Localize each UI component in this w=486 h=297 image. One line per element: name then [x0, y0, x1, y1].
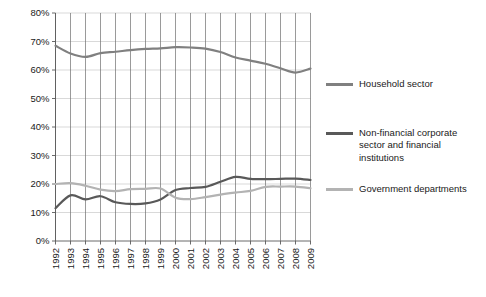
x-axis-tick-label: 2001 — [185, 248, 196, 269]
x-axis-tick-label: 1995 — [95, 248, 106, 269]
legend-item-non-financial-corporate: Non-financial corporate sector and finan… — [326, 127, 457, 164]
x-axis-tick-labels: 1992199319941995199619971998199920002001… — [50, 248, 316, 269]
y-axis-tick-label: 40% — [30, 121, 50, 132]
x-axis-tick-label: 2004 — [230, 248, 241, 269]
legend-item-household-sector: Household sector — [326, 78, 433, 90]
x-axis-tick-label: 1996 — [110, 248, 121, 269]
x-axis-tick-label: 2005 — [245, 248, 256, 269]
legend-swatch-household-sector — [326, 83, 353, 86]
legend-label-household-sector: Household sector — [359, 78, 433, 90]
series-line-non-financial-corporate-sector-and-finan — [56, 177, 311, 208]
x-axis-tick-label: 1999 — [155, 248, 166, 269]
x-axis-tick-label: 2006 — [260, 248, 271, 269]
y-axis-tick-label: 20% — [30, 178, 50, 189]
x-axis-tick-label: 2009 — [305, 248, 316, 269]
legend-swatch-non-financial-corporate — [326, 132, 353, 135]
legend-label-government-departments: Government departments — [359, 183, 467, 195]
x-axis-tick-label: 1992 — [50, 248, 61, 269]
x-axis-tick-label: 1993 — [65, 248, 76, 269]
x-axis-tick-label: 1998 — [140, 248, 151, 269]
x-axis-tick-label: 2002 — [200, 248, 211, 269]
y-axis-tick-label: 30% — [30, 150, 50, 161]
y-axis-tick-labels: 80%70%60%50%40%30%20%10%0% — [30, 7, 50, 246]
x-axis-tick-label: 2003 — [215, 248, 226, 269]
legend-swatch-government-departments — [326, 188, 353, 191]
y-axis-tick-label: 60% — [30, 64, 50, 75]
x-axis-tick-label: 2008 — [290, 248, 301, 269]
x-axis-tick-label: 2007 — [275, 248, 286, 269]
y-axis-tick-label: 10% — [30, 207, 50, 218]
series-line-household-sector — [56, 46, 311, 73]
x-axis-tick-label: 2000 — [170, 248, 181, 269]
y-axis-tick-label: 0% — [36, 235, 50, 246]
legend-item-government-departments: Government departments — [326, 183, 467, 195]
line-chart: 80%70%60%50%40%30%20%10%0% 1992199319941… — [0, 0, 486, 297]
y-axis-tick-label: 80% — [30, 7, 50, 18]
legend-label-non-financial-corporate: Non-financial corporate sector and finan… — [359, 127, 457, 164]
x-axis-tick-label: 1997 — [125, 248, 136, 269]
horizontal-gridlines — [56, 13, 311, 213]
x-axis-tick-label: 1994 — [80, 248, 91, 269]
y-axis-tick-label: 70% — [30, 36, 50, 47]
y-axis-tick-label: 50% — [30, 93, 50, 104]
